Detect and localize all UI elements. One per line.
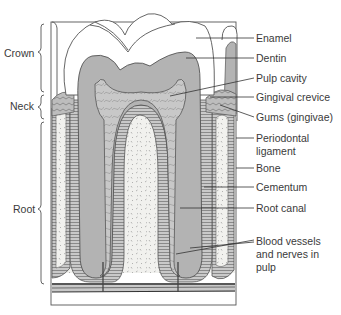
label-bone: Bone bbox=[256, 162, 281, 174]
label-blood-vessels-line3: pulp bbox=[256, 261, 276, 273]
right-neighbor-tooth bbox=[212, 26, 237, 279]
label-gums: Gums (gingivae) bbox=[256, 111, 333, 123]
region-label-root: Root bbox=[13, 203, 35, 215]
label-cementum: Cementum bbox=[256, 181, 308, 193]
label-blood-vessels-line2: and nerves in bbox=[256, 248, 319, 260]
tooth-anatomy-diagram: Crown Neck Root Enamel Dentin Pulp cavit… bbox=[0, 0, 341, 315]
label-pulp-cavity: Pulp cavity bbox=[256, 72, 308, 84]
vessel-band bbox=[52, 283, 235, 292]
region-label-crown: Crown bbox=[4, 47, 35, 59]
label-dentin: Dentin bbox=[256, 52, 287, 64]
region-label-neck: Neck bbox=[10, 100, 35, 112]
region-braces bbox=[38, 24, 44, 284]
label-root-canal: Root canal bbox=[256, 202, 306, 214]
label-periodontal-ligament-line2: ligament bbox=[256, 145, 296, 157]
label-periodontal-ligament: Periodontal bbox=[256, 132, 309, 144]
label-gingival-crevice: Gingival crevice bbox=[256, 91, 330, 103]
label-blood-vessels: Blood vessels bbox=[256, 235, 321, 247]
label-enamel: Enamel bbox=[256, 32, 292, 44]
